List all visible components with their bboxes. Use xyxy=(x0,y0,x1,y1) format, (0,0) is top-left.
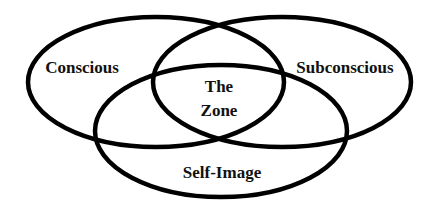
subconscious-label: Subconscious xyxy=(296,59,393,76)
conscious-label: Conscious xyxy=(45,59,119,76)
conscious-ellipse xyxy=(28,17,284,147)
the-zone-line2: Zone xyxy=(201,99,238,123)
self-image-label: Self-Image xyxy=(183,164,261,181)
the-zone-line1: The xyxy=(201,75,238,99)
the-zone-label: The Zone xyxy=(201,75,238,123)
